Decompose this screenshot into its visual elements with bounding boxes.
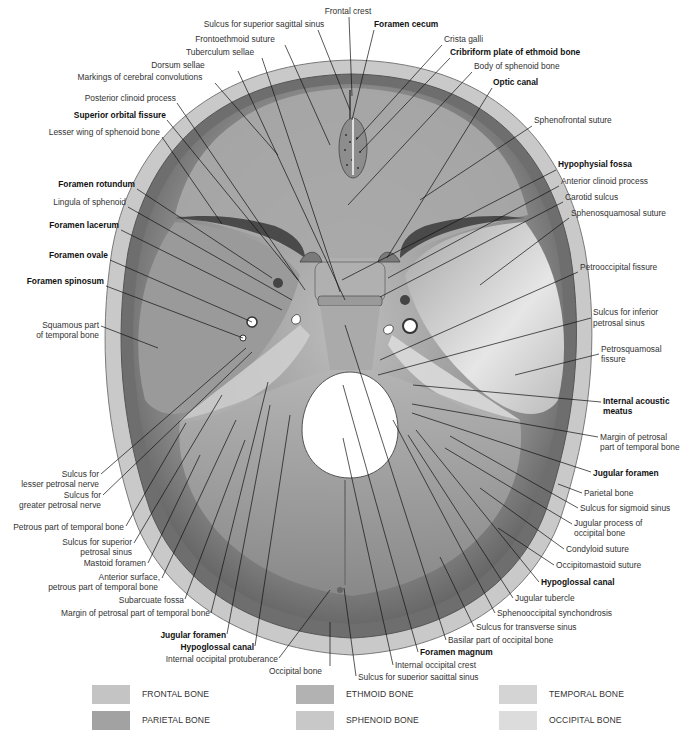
label-foramen-spinosum: Foramen spinosum [27,276,104,286]
label-foramen-rotundum: Foramen rotundum [58,179,135,189]
label-subarcuate-fossa: Subarcuate fossa [119,595,185,605]
legend-label-occipital: OCCIPITAL BONE [549,715,622,725]
label-anterior-surface-petrous-1: Anterior surface, [99,572,160,582]
legend-label-ethmoid: ETHMOID BONE [346,689,414,699]
label-posterior-clinoid-process: Posterior clinoid process [85,93,176,103]
label-jugular-foramen-left: Jugular foramen [160,630,226,640]
foramen-rotundum-left [273,278,283,288]
skull-illustration: Frontal crestSulcus for superior sagitta… [0,0,691,680]
foramen-rotundum-right [400,295,410,305]
legend-swatch-ethmoid [296,685,334,704]
label-foramen-lacerum: Foramen lacerum [49,220,119,230]
label-sulcus-inferior-petrosal-2: petrosal sinus [593,318,645,328]
label-internal-occipital-crest: Internal occipital crest [395,660,477,670]
label-hypophysial-fossa: Hypophysial fossa [558,159,632,169]
label-sulcus-transverse-sinus: Sulcus for transverse sinus [476,622,577,632]
label-hypoglossal-canal-left: Hypoglossal canal [180,642,254,652]
label-foramen-cecum: Foramen cecum [374,19,438,29]
legend-swatch-temporal [499,685,537,704]
label-mastoid-foramen: Mastoid foramen [84,558,147,568]
label-lesser-wing-sphenoid: Lesser wing of sphenoid bone [49,127,161,137]
label-basilar-part-occipital: Basilar part of occipital bone [448,635,554,645]
legend-item-sphenoid: SPHENOID BONE [296,710,419,730]
label-foramen-ovale: Foramen ovale [49,250,108,260]
skull-base-figure: Frontal crestSulcus for superior sagitta… [0,0,691,737]
label-tuberculum-sellae: Tuberculum sellae [186,47,254,57]
label-carotid-sulcus: Carotid sulcus [565,192,618,202]
label-sulcus-lesser-petrosal-2: lesser petrosal nerve [21,479,99,489]
label-margin-petrosal-right-2: part of temporal bone [600,442,680,452]
label-anterior-surface-petrous-2: petrous part of temporal bone [48,582,158,592]
label-jugular-process-occipital-1: Jugular process of [574,518,643,528]
label-margin-petrosal-right-1: Margin of petrosal [600,432,667,442]
label-squamous-part-temporal-2: of temporal bone [36,330,99,340]
label-petrosquamosal-fissure-1: Petrosquamosal [601,344,662,354]
label-internal-acoustic-meatus-1: Internal acoustic [603,396,670,406]
label-sulcus-superior-petrosal-2: petrosal sinus [80,547,132,557]
label-cribriform-plate: Cribriform plate of ethmoid bone [450,47,581,57]
label-parietal-bone: Parietal bone [584,488,634,498]
legend-label-sphenoid: SPHENOID BONE [346,715,419,725]
label-superior-orbital-fissure: Superior orbital fissure [74,110,166,120]
label-occipitomastoid-suture: Occipitomastoid suture [556,560,642,570]
legend-swatch-occipital [499,711,537,730]
legend-item-ethmoid: ETHMOID BONE [296,684,414,704]
label-sulcus-lesser-petrosal-1: Sulcus for [62,469,99,479]
label-lingula-of-sphenoid: Lingula of sphenoid [53,197,126,207]
label-sulcus-superior-sagittal-sinus-top: Sulcus for superior sagittal sinus [204,19,325,29]
legend-swatch-frontal [92,685,130,704]
legend-item-frontal: FRONTAL BONE [92,684,209,704]
label-margin-petrosal-left: Margin of petrosal part of temporal bone [61,608,210,618]
legend-item-parietal: PARIETAL BONE [92,710,210,730]
label-occipital-bone: Occipital bone [269,666,322,676]
legend-label-frontal: FRONTAL BONE [142,689,209,699]
label-sulcus-greater-petrosal-2: greater petrosal nerve [19,500,101,510]
label-squamous-part-temporal-1: Squamous part [42,320,99,330]
label-sphenosquamosal-suture: Sphenosquamosal suture [571,208,666,218]
label-dorsum-sellae: Dorsum sellae [151,60,205,70]
legend-label-temporal: TEMPORAL BONE [549,689,624,699]
label-sulcus-superior-petrosal-1: Sulcus for superior [62,537,132,547]
bone-color-legend: FRONTAL BONE PARIETAL BONE ETHMOID BONE … [0,680,691,737]
label-sulcus-sigmoid-sinus: Sulcus for sigmoid sinus [580,503,670,513]
label-condyloid-suture: Condyloid suture [566,544,629,554]
label-jugular-tubercle: Jugular tubercle [515,593,575,603]
clivus [320,306,380,370]
foramen-magnum-shape [302,372,398,478]
label-crista-galli: Crista galli [444,34,483,44]
legend-swatch-sphenoid [296,711,334,730]
label-petrooccipital-fissure: Petrooccipital fissure [580,262,658,272]
label-sphenooccipital-synchondrosis: Sphenooccipital synchondrosis [497,608,612,618]
label-sulcus-inferior-petrosal-1: Sulcus for inferior [593,307,658,317]
label-hypoglossal-canal-right: Hypoglossal canal [541,577,615,587]
label-internal-acoustic-meatus-2: meatus [603,406,633,416]
legend-item-temporal: TEMPORAL BONE [499,684,624,704]
dorsum-sellae-shape [318,296,382,306]
legend-item-occipital: OCCIPITAL BONE [499,710,622,730]
label-frontoethmoid-suture: Frontoethmoid suture [195,34,275,44]
label-jugular-foramen-right: Jugular foramen [593,468,659,478]
label-sulcus-greater-petrosal-1: Sulcus for [64,490,101,500]
label-markings-cerebral-convolutions: Markings of cerebral convolutions [78,72,203,82]
label-sphenofrontal-suture: Sphenofrontal suture [534,115,612,125]
label-body-of-sphenoid: Body of sphenoid bone [474,61,560,71]
foramen-ovale-right [403,319,417,333]
label-anterior-clinoid-process: Anterior clinoid process [561,176,648,186]
label-jugular-process-occipital-2: occipital bone [574,528,626,538]
legend-swatch-parietal [92,711,130,730]
label-optic-canal: Optic canal [493,77,538,87]
legend-label-parietal: PARIETAL BONE [142,715,210,725]
label-petrous-part-temporal: Petrous part of temporal bone [13,522,124,532]
label-foramen-magnum: Foramen magnum [420,647,493,657]
label-petrosquamosal-fissure-2: fissure [601,354,626,364]
label-internal-occipital-protuberance: Internal occipital protuberance [166,654,279,664]
label-frontal-crest: Frontal crest [325,6,372,16]
label-sulcus-superior-sagittal-sinus-bottom: Sulcus for superior sagittal sinus [358,672,479,680]
